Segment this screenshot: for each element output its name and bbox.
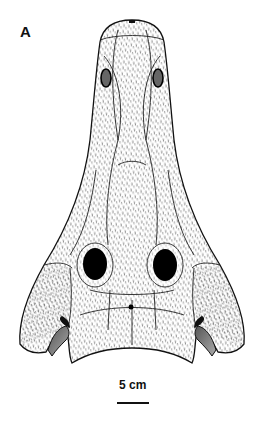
snout-tip-notch <box>129 20 135 23</box>
skull-illustration <box>0 0 264 429</box>
scale-bar <box>117 402 149 404</box>
left-orbit <box>83 248 107 280</box>
pineal-foramen <box>129 305 134 310</box>
right-orbit <box>153 249 177 281</box>
right-naris <box>153 69 163 87</box>
left-naris <box>101 69 111 87</box>
scale-bar-label: 5 cm <box>119 379 146 391</box>
